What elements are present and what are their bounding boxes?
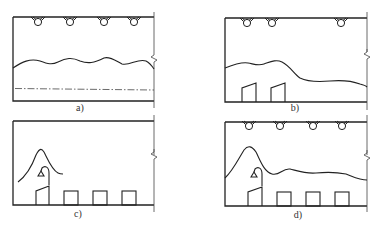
break-line-icon (364, 49, 370, 62)
break-line-icon (364, 150, 370, 163)
desk-lamp-icon (38, 167, 49, 185)
workbench-icon (306, 192, 320, 206)
lamp-icon (265, 18, 279, 27)
panel-b: b) (225, 12, 370, 114)
lamp-icon (63, 17, 77, 26)
room-outline (13, 121, 154, 205)
lamp-icon (240, 18, 254, 27)
break-line-icon (151, 149, 157, 162)
workbench-icon (242, 83, 256, 102)
workbench-icon (248, 187, 262, 206)
panel-label-d: d) (294, 209, 302, 221)
panel-label-b: b) (291, 102, 299, 114)
panel-d: d) (225, 115, 370, 221)
workbench-icon (271, 83, 285, 102)
illuminance-curve (225, 61, 367, 87)
lighting-diagram: a) b) c) (0, 0, 377, 230)
workbench-icon (93, 191, 107, 205)
panel-label-c: c) (74, 208, 82, 220)
panel-a: a) (13, 12, 157, 114)
lamp-icon (334, 18, 348, 27)
lamp-icon (31, 17, 45, 26)
illuminance-curve (13, 58, 154, 69)
workbench-icon (335, 192, 349, 206)
panel-label-a: a) (76, 102, 84, 114)
reference-dash-dot-line (15, 89, 154, 91)
illuminance-curve (18, 149, 63, 182)
workbench-icon (64, 191, 78, 205)
workbench-icon (122, 191, 136, 205)
panel-c: c) (13, 115, 157, 220)
room-outline (225, 18, 367, 102)
room-outline (225, 122, 367, 206)
lamp-icon (97, 17, 111, 26)
workbench-icon (277, 192, 291, 206)
lamp-icon (127, 17, 141, 26)
workbench-icon (36, 186, 49, 205)
illuminance-curve (225, 147, 367, 180)
desk-lamp-icon (251, 168, 262, 186)
break-line-icon (151, 52, 157, 65)
